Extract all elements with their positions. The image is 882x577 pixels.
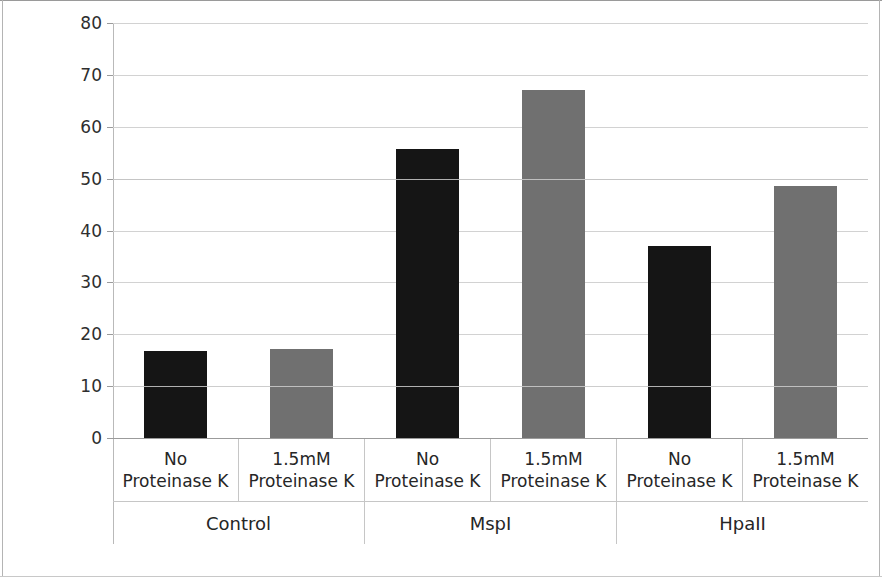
y-axis-tick-label: 80 (57, 13, 102, 33)
x-axis-category-line2: Proteinase K (501, 470, 607, 492)
gridline-20 (113, 334, 868, 335)
gridline-70 (113, 75, 868, 76)
y-axis-tick-label: 10 (57, 376, 102, 396)
gridline-80 (113, 23, 868, 24)
x-axis-category-line1: 1.5mM (272, 448, 330, 470)
y-axis-tick-label: 50 (57, 169, 102, 189)
x-axis-category-line1: 1.5mM (776, 448, 834, 470)
x-axis-category-line2: Proteinase K (123, 470, 229, 492)
x-axis-category-label: NoProteinase K (113, 439, 239, 501)
x-axis: NoProteinase K1.5mMProteinase KNoProtein… (113, 439, 868, 544)
bar (396, 149, 459, 438)
figure-border-right (879, 0, 880, 577)
gridline-60 (113, 127, 868, 128)
figure-border-top (0, 0, 882, 1)
x-axis-group-label: Control (113, 502, 365, 544)
x-axis-group-label: HpaII (617, 502, 868, 544)
bar (270, 349, 333, 438)
x-axis-group-row: ControlMspIHpaII (113, 501, 868, 544)
bar (774, 186, 837, 438)
x-axis-group-label: MspI (365, 502, 617, 544)
bar (144, 351, 207, 438)
x-axis-category-line2: Proteinase K (375, 470, 481, 492)
gridline-50 (113, 179, 868, 180)
x-axis-category-line1: No (416, 448, 439, 470)
x-axis-category-label: 1.5mMProteinase K (491, 439, 617, 501)
y-axis-tick-label: 40 (57, 221, 102, 241)
y-axis-tick-label: 0 (57, 428, 102, 448)
y-axis-tick-label: 20 (57, 324, 102, 344)
x-axis-condition-row: NoProteinase K1.5mMProteinase KNoProtein… (113, 439, 868, 501)
x-axis-category-label: 1.5mMProteinase K (239, 439, 365, 501)
x-axis-category-line2: Proteinase K (627, 470, 733, 492)
gridline-30 (113, 282, 868, 283)
x-axis-category-line1: No (668, 448, 691, 470)
bar (522, 90, 585, 438)
bar (648, 246, 711, 438)
y-axis-tick-label: 70 (57, 65, 102, 85)
x-axis-category-label: 1.5mMProteinase K (743, 439, 868, 501)
x-axis-category-label: NoProteinase K (617, 439, 743, 501)
gridline-40 (113, 231, 868, 232)
x-axis-category-line1: No (164, 448, 187, 470)
x-axis-category-line1: 1.5mM (524, 448, 582, 470)
bar-chart-figure: Percentage DNA Methylation 0102030405060… (0, 0, 882, 577)
y-axis-tick-label: 60 (57, 117, 102, 137)
y-axis-tick-label: 30 (57, 272, 102, 292)
x-axis-category-line2: Proteinase K (753, 470, 859, 492)
figure-border-left (2, 0, 3, 577)
plot-area (113, 23, 868, 438)
gridline-10 (113, 386, 868, 387)
x-axis-category-label: NoProteinase K (365, 439, 491, 501)
x-axis-category-line2: Proteinase K (249, 470, 355, 492)
